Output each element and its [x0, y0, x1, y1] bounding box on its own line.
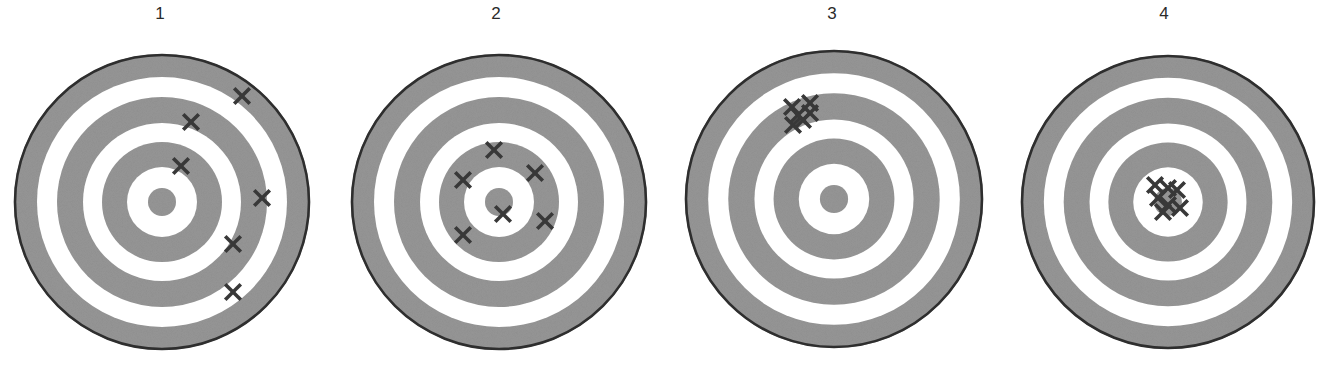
bullseye-target-4 [0, 0, 1328, 368]
